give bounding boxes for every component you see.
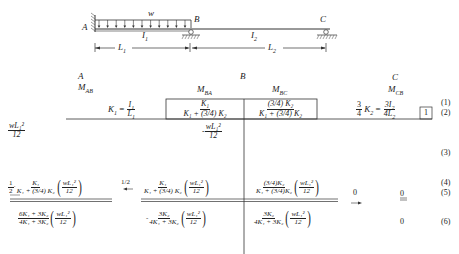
support-hatch (194, 35, 196, 39)
carry-over-factor: 1/2 (121, 178, 130, 186)
moment-mba-header: MBA (197, 84, 212, 94)
load-arrowhead (141, 26, 144, 29)
support-hatch (326, 35, 328, 39)
stiffness-k2: 34 K2 = 3I24L2 (356, 101, 396, 119)
row-number-1: (1) (441, 98, 450, 107)
moment-mbc-header: MBC (272, 84, 287, 94)
joint-c-header: C (392, 72, 398, 82)
support-hatch (329, 35, 331, 39)
length-l2-label: L2 (268, 42, 276, 52)
moment-mcb-header: MCB (388, 84, 403, 94)
load-arrowhead (106, 26, 109, 29)
df-cb-value: 1 (424, 108, 428, 117)
load-arrowhead (124, 26, 127, 29)
load-arrowhead (158, 26, 161, 29)
distribution-bc: (3/4)K₂K₁ + (3/4)K₂(wL₁²12) (255, 177, 320, 198)
joint-b-header: B (240, 71, 246, 81)
support-hatch (320, 35, 322, 39)
inertia-i1-label: I1 (142, 30, 148, 40)
moment-mab-header: MAB (78, 82, 93, 92)
df-ba-cell: K₁K₁ + (3/4) K₂ (166, 99, 244, 119)
carry-over-ab: 12·K₁K₁ + (3/4) K₂(wL₁²12) (8, 177, 83, 198)
support-hatch (191, 35, 193, 39)
inertia-i2-label: I2 (251, 30, 257, 40)
moment-cb-row5: 0 (400, 189, 404, 198)
row-number-4: (4) (441, 178, 450, 187)
fem-ab: wL₁²12 (8, 122, 25, 140)
stiffness-k1: K1 = I1L1 (108, 101, 136, 119)
final-moment-bc: 3K₂4K₁ + 3K₂(wL₁²12) (253, 208, 312, 229)
load-arrowhead (175, 26, 178, 29)
row-number-2: (2) (441, 108, 450, 117)
support-hatch (197, 35, 199, 39)
df-bc-cell: (3/4) K₂K₁ + (3/4) K₂ (244, 99, 317, 119)
row-number-3: (3) (441, 148, 450, 157)
dimension-l1 (95, 43, 190, 52)
load-arrowhead (149, 26, 152, 29)
final-moment-cb: 0 (400, 217, 404, 226)
support-hatch (332, 35, 334, 39)
fem-ba: -wL₁²12 (202, 123, 222, 141)
load-arrowhead (184, 26, 187, 29)
support-hatch (182, 35, 184, 39)
roller-support-c (317, 30, 337, 39)
node-c-label: C (320, 14, 326, 24)
final-moment-ba: -3K₂4K₁ + 3K₂(wL₁²12) (146, 208, 207, 229)
distribution-ba: K₁K₁ + (3/4) K₂(wL₁²12) (143, 177, 210, 198)
carry-over-cb: 0 (353, 188, 357, 197)
row-number-5: (5) (441, 188, 450, 197)
support-hatch (185, 35, 187, 39)
node-a-label: A (82, 22, 88, 32)
load-arrowhead (115, 26, 118, 29)
load-arrowhead (98, 26, 101, 29)
row-number-6: (6) (441, 217, 450, 226)
joint-a-header: A (78, 71, 84, 81)
fixed-support-a (91, 13, 95, 32)
load-arrowhead (167, 26, 170, 29)
load-arrowhead (132, 26, 135, 29)
support-hatch (317, 35, 319, 39)
node-b-label: B (194, 14, 200, 24)
length-l1-label: L1 (118, 42, 126, 52)
final-moment-ab: 6K₁ + 3K₂4K₁ + 3K₂(wL₁²12) (18, 208, 77, 229)
distributed-load (95, 20, 191, 28)
support-hatch (188, 35, 190, 39)
k1-denominator: L1 (127, 110, 136, 118)
dimension-l2 (192, 43, 326, 52)
support-hatch (323, 35, 325, 39)
load-w-label: w (148, 8, 154, 18)
support-hatch (335, 35, 337, 39)
